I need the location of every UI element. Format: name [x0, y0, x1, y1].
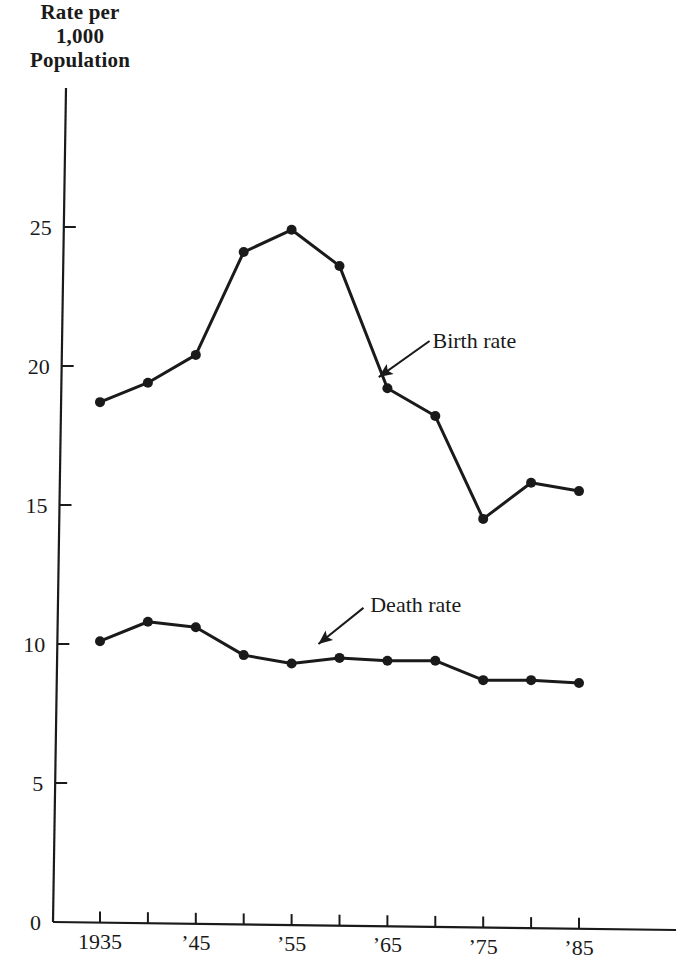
series-line [100, 230, 579, 519]
axes: 05101520251935’45’55’65’75’85 [23, 88, 676, 960]
data-point-marker [574, 678, 584, 688]
data-point-marker [287, 658, 297, 668]
data-point-marker [430, 411, 440, 421]
data-point-marker [526, 478, 536, 488]
series-line [100, 622, 579, 683]
x-axis-line [53, 922, 676, 930]
data-point-marker [382, 383, 392, 393]
data-point-marker [143, 617, 153, 627]
y-tick-label: 20 [28, 354, 50, 379]
series-birth-rate [95, 225, 584, 524]
data-point-marker [191, 622, 201, 632]
x-tick-label: ’85 [564, 935, 593, 960]
data-point-marker [239, 247, 249, 257]
data-point-marker [287, 225, 297, 235]
data-point-marker [239, 650, 249, 660]
y-tick-label: 5 [32, 771, 43, 796]
y-tick-label: 25 [30, 215, 52, 240]
data-point-marker [526, 675, 536, 685]
data-point-marker [335, 653, 345, 663]
annotation-death-rate: Death rate [318, 592, 461, 644]
x-tick-label: ’45 [181, 930, 210, 955]
y-tick-label: 10 [23, 632, 45, 657]
plot-area: 05101520251935’45’55’65’75’85 Birth rate… [0, 0, 680, 960]
arrow-head-icon [318, 631, 333, 644]
annotation-birth-rate: Birth rate [379, 328, 516, 377]
y-tick-label: 0 [30, 910, 41, 935]
y-tick-label: 15 [26, 493, 48, 518]
x-tick-label: ’55 [277, 931, 306, 956]
x-tick-label: ’75 [469, 934, 498, 959]
data-point-marker [143, 378, 153, 388]
annotation-label: Birth rate [433, 328, 517, 353]
annotation-label: Death rate [370, 592, 461, 617]
line-chart: Rate per 1,000 Population 05101520251935… [0, 0, 680, 960]
data-point-marker [478, 514, 488, 524]
data-point-marker [191, 350, 201, 360]
data-point-marker [335, 261, 345, 271]
data-point-marker [430, 656, 440, 666]
data-point-marker [574, 486, 584, 496]
data-point-marker [95, 397, 105, 407]
x-tick-label: ’65 [373, 932, 402, 957]
annotations: Birth rateDeath rate [318, 328, 516, 644]
data-point-marker [382, 656, 392, 666]
data-point-marker [478, 675, 488, 685]
x-tick-label: 1935 [78, 929, 122, 954]
series-layer [95, 225, 584, 688]
data-point-marker [95, 636, 105, 646]
